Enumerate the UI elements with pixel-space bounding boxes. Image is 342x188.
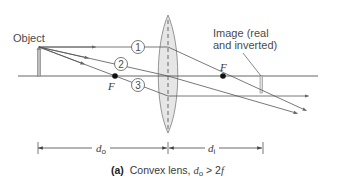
object-distance-dimension: do [38,142,167,156]
image-leader-line [243,53,261,76]
focal-point-left [112,73,118,79]
svg-text:1: 1 [135,42,141,53]
svg-text:do: do [96,142,107,156]
focal-point-right [220,73,226,79]
ray-2-label: 2 [115,58,128,71]
image-label-line1: Image (real [213,27,269,39]
convex-lens-ray-diagram: 1 2 3 F F Object Image (real and inverte… [0,0,342,188]
object-arrow [38,49,41,76]
focal-label-left: F [107,80,115,92]
svg-text:3: 3 [135,80,141,91]
image-label-line2: and inverted) [213,39,277,51]
ray-3-label: 3 [132,79,145,92]
ray-1-label: 1 [132,41,145,54]
convex-lens [158,15,178,133]
image-distance-dimension: di [169,142,263,156]
svg-text:di: di [208,142,216,156]
object-label: Object [13,32,45,44]
figure-caption: (a) Convex lens, do > 2f [111,164,226,178]
focal-label-right: F [219,61,227,73]
svg-text:2: 2 [118,59,124,70]
